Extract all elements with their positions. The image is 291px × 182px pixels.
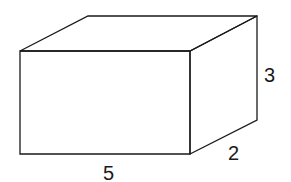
width-label: 2 <box>228 142 239 164</box>
prism-diagram: 3 2 5 <box>0 0 291 182</box>
height-label: 3 <box>264 64 275 86</box>
prism-edges <box>20 16 257 154</box>
right-face <box>190 16 257 154</box>
length-label: 5 <box>103 162 114 182</box>
front-face <box>20 51 190 154</box>
top-face <box>20 16 257 51</box>
